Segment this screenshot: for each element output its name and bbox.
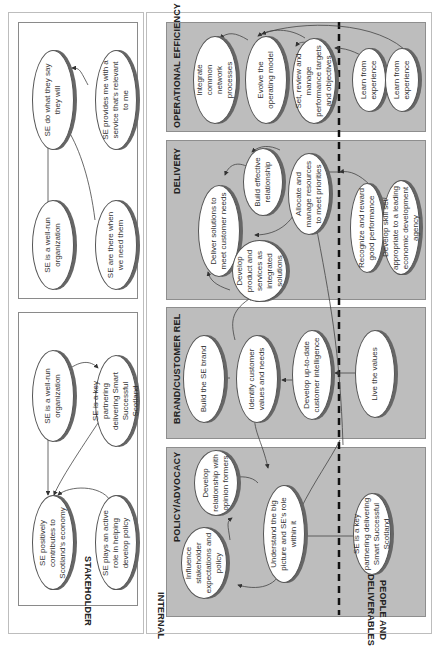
node-recognize-reward-performance[interactable]: Recognize and reward good performance (350, 183, 384, 273)
node-se-key-partnering-people[interactable]: SE is a key partnering delivering Smart … (353, 493, 391, 575)
node-se-key-partnering-stakeholder[interactable]: SE is a key partnering delivering Smart … (95, 355, 137, 447)
band-title-operational-efficiency: OPERATIONAL EFFICIENCY (172, 3, 182, 128)
band-title-delivery: DELIVERY (172, 148, 182, 194)
node-build-se-brand[interactable]: Build the SE brand (183, 335, 225, 423)
node-identify-customer-values[interactable]: Identify customer values and needs (236, 335, 278, 423)
people-title-line2: DELIVERABLES (366, 574, 376, 646)
node-develop-integrated-solutions[interactable]: Develop product and services as integrat… (232, 240, 287, 302)
people-title-line1: PEOPLE AND (378, 580, 388, 640)
band-title-brand-customer-rel: BRAND/CUSTOMER REL (172, 314, 182, 424)
stakeholder-title: STAKEHOLDER (83, 556, 93, 626)
node-develop-skill-set[interactable]: Develop skill set appropriate to a leadi… (382, 180, 420, 275)
node-se-well-run-org-bottom[interactable]: SE is a well-run organization (32, 350, 74, 442)
node-learn-from-experience-1[interactable]: Learn from experience (352, 48, 386, 112)
node-se-active-role-policy[interactable]: SE plays an active role in helping devel… (95, 495, 137, 590)
node-relationship-opinion-formers[interactable]: Develop relationship with opinion former… (194, 450, 238, 516)
node-allocate-manage-resources[interactable]: Allocate and manage resources to meet pr… (288, 153, 330, 235)
node-se-provides-relevant-service[interactable]: SE provides me with a service that's rel… (95, 50, 137, 150)
node-understand-big-picture[interactable]: Understand the big picture and SE's role… (263, 485, 305, 583)
node-integrate-network-processes[interactable]: Integrate common network processes (193, 36, 237, 124)
node-set-review-performance[interactable]: Set, review and manage performance targe… (292, 38, 336, 124)
node-se-there-when-needed[interactable]: SE are there when we need them (95, 200, 137, 290)
node-live-the-values[interactable]: Live the values (355, 330, 395, 418)
node-se-contributes-economy[interactable]: SE positively contributes to Scotland's … (32, 495, 74, 590)
node-se-well-run-org-top[interactable]: SE is a well-run organization (32, 200, 74, 290)
node-influence-stakeholder[interactable]: Influence stakeholder expectations and p… (181, 527, 227, 599)
node-se-do-what-they-say[interactable]: SE do what they say they will (32, 50, 74, 150)
node-learn-from-experience-2[interactable]: Learn from experience (385, 48, 419, 112)
node-build-effective-relationship[interactable]: Build effective relationship (243, 148, 283, 216)
internal-title: INTERNAL (156, 592, 166, 639)
node-evolve-operating-model[interactable]: Evolve the operating model (245, 36, 287, 124)
node-customer-intelligence[interactable]: Develop up-to-date customer intelligence (292, 330, 332, 420)
